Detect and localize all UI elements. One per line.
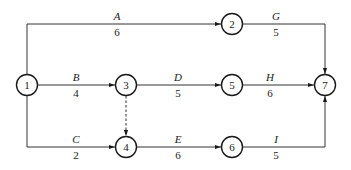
node-7: 7 <box>315 75 336 96</box>
node-6-label: 6 <box>229 141 235 153</box>
node-2: 2 <box>222 14 243 35</box>
node-4: 4 <box>116 137 137 158</box>
activity-E-name: E <box>174 133 182 145</box>
node-5-label: 5 <box>229 79 235 91</box>
activity-D-name: D <box>173 71 182 83</box>
edge-A <box>27 24 221 75</box>
network-diagram: A 6 B 4 C 2 D 5 E 6 G 5 H 6 I 5 1 2 3 4 <box>0 0 351 170</box>
activity-G-name: G <box>272 10 280 22</box>
activity-G-duration: 5 <box>273 26 279 38</box>
node-7-label: 7 <box>322 79 328 91</box>
edge-G <box>243 24 325 74</box>
activity-B-name: B <box>73 71 80 83</box>
activity-I-name: I <box>273 133 279 145</box>
node-4-label: 4 <box>123 141 129 153</box>
node-3: 3 <box>116 75 137 96</box>
activity-C-duration: 2 <box>73 149 79 161</box>
activity-C-name: C <box>72 133 80 145</box>
activity-B-duration: 4 <box>73 87 79 99</box>
activity-I-duration: 5 <box>273 149 279 161</box>
activity-E-duration: 6 <box>175 149 181 161</box>
activity-A-duration: 6 <box>114 26 120 38</box>
node-3-label: 3 <box>123 79 129 91</box>
node-1-label: 1 <box>24 79 30 91</box>
activity-H-duration: 6 <box>267 87 273 99</box>
activity-H-name: H <box>265 71 275 83</box>
diagram-svg: A 6 B 4 C 2 D 5 E 6 G 5 H 6 I 5 1 2 3 4 <box>0 0 351 170</box>
node-6: 6 <box>222 137 243 158</box>
activity-D-duration: 5 <box>175 87 181 99</box>
edge-C <box>27 95 115 147</box>
node-2-label: 2 <box>229 18 235 30</box>
node-1: 1 <box>17 75 38 96</box>
node-5: 5 <box>222 75 243 96</box>
edge-I <box>243 96 325 147</box>
activity-A-name: A <box>113 10 121 22</box>
